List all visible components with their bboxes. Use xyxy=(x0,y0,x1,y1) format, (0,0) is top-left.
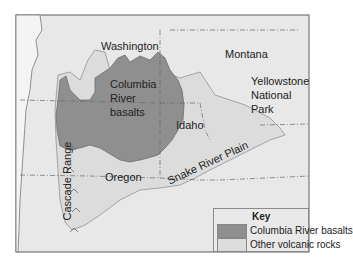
label-columbia-river-basalts-1: Columbia xyxy=(110,78,156,90)
label-montana: Montana xyxy=(225,48,268,60)
label-columbia-river-basalts-3: basalts xyxy=(110,106,145,118)
map-key: Key Columbia River basalts Other volcani… xyxy=(213,208,309,252)
label-idaho: Idaho xyxy=(176,119,204,131)
label-oregon: Oregon xyxy=(105,171,142,183)
label-yellowstone-3: Park xyxy=(251,103,274,115)
key-title: Key xyxy=(252,211,270,222)
label-yellowstone-1: Yellowstone xyxy=(251,75,309,87)
key-swatch-columbia-basalts xyxy=(217,224,247,238)
label-columbia-river-basalts-2: River xyxy=(110,92,136,104)
label-washington: Washington xyxy=(101,40,159,52)
label-cascade-range: Cascade Range xyxy=(61,142,73,221)
key-swatch-other-volcanic xyxy=(217,238,247,252)
key-label-columbia-basalts: Columbia River basalts xyxy=(250,225,353,236)
key-label-other-volcanic: Other volcanic rocks xyxy=(250,239,341,250)
label-yellowstone-2: National xyxy=(251,89,291,101)
